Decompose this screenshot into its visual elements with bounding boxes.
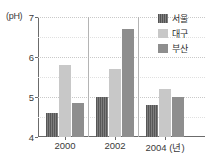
bar — [172, 97, 184, 137]
legend-item-label: 부산 — [172, 42, 188, 55]
x-tick-label: 2004 (년) — [145, 140, 184, 154]
chart-legend: 서울대구부산 — [158, 11, 204, 56]
x-tick-label: 2002 — [104, 140, 125, 151]
legend-item-label: 대구 — [172, 27, 188, 40]
y-tick-label: 7 — [29, 12, 34, 23]
y-axis-tick-labels: 4567 — [18, 17, 34, 137]
plot-area — [38, 17, 163, 137]
bar — [159, 89, 171, 137]
bar — [109, 69, 121, 137]
bar — [96, 97, 108, 137]
bar — [72, 103, 84, 137]
x-tick-mark — [65, 137, 66, 140]
ph-bar-chart: (pH) 4567 200020022004 (년) 서울대구부산 — [0, 0, 205, 163]
legend-swatch-icon — [158, 44, 168, 53]
y-tick-label: 4 — [29, 132, 34, 143]
y-tick-label: 5 — [29, 92, 34, 103]
legend-swatch-icon — [158, 14, 168, 23]
x-tick-mark — [115, 137, 116, 140]
bar — [59, 65, 71, 137]
legend-item[interactable]: 서울 — [158, 11, 204, 25]
x-axis-tick-labels: 200020022004 (년) — [38, 140, 205, 156]
x-tick-mark — [165, 137, 166, 140]
legend-item-label: 서울 — [172, 12, 188, 25]
y-tick-mark — [35, 137, 38, 138]
bar — [146, 105, 158, 137]
bar — [46, 113, 58, 137]
bar — [122, 29, 134, 137]
x-tick-label: 2000 — [54, 140, 75, 151]
y-tick-label: 6 — [29, 52, 34, 63]
group-separator — [88, 17, 89, 137]
legend-swatch-icon — [158, 29, 168, 38]
legend-item[interactable]: 부산 — [158, 41, 204, 55]
legend-item[interactable]: 대구 — [158, 26, 204, 40]
group-separator — [138, 17, 139, 137]
